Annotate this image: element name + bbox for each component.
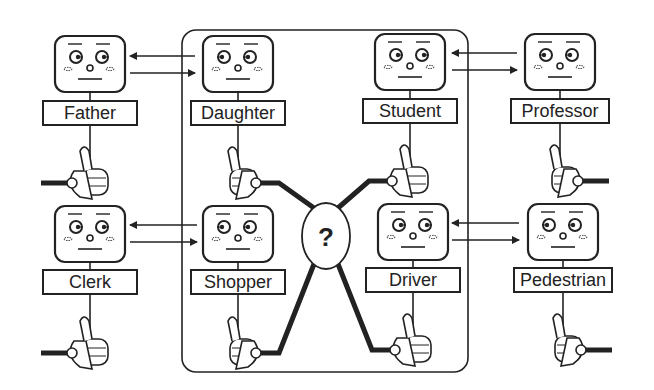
thumbs-up-hand-icon — [390, 314, 431, 366]
robot-face-icon — [55, 36, 125, 92]
role-label: Shopper — [191, 270, 285, 294]
thumbs-up-hand-icon — [228, 147, 261, 199]
thumbs-up-hand-icon — [228, 317, 261, 369]
connection-cable — [338, 181, 387, 208]
message-arrows-student-professor — [452, 53, 517, 70]
role-label-text: Daughter — [201, 103, 275, 123]
role-label: Daughter — [191, 101, 285, 125]
thumbs-up-hand-icon — [550, 145, 583, 197]
role-label: Pedestrian — [514, 268, 612, 292]
role-label: Clerk — [43, 270, 137, 294]
role-label-text: Clerk — [69, 272, 112, 292]
agent-shopper[interactable]: Shopper — [191, 206, 285, 369]
message-arrows-clerk-shopper — [130, 225, 197, 242]
robot-face-icon — [528, 204, 598, 260]
agent-professor[interactable]: Professor — [511, 34, 609, 197]
role-label-text: Professor — [521, 101, 598, 121]
role-label: Professor — [511, 99, 609, 123]
agent-daughter[interactable]: Daughter — [191, 36, 285, 199]
question-mark-icon: ? — [318, 222, 334, 252]
thumbs-up-hand-icon — [387, 145, 428, 197]
role-label-text: Shopper — [204, 272, 272, 292]
message-arrows-driver-pedestrian — [452, 223, 519, 240]
agent-student[interactable]: Student — [363, 34, 457, 197]
robot-face-icon — [203, 36, 273, 92]
agent-pedestrian[interactable]: Pedestrian — [514, 204, 612, 366]
robot-face-icon — [378, 204, 448, 260]
agent-father[interactable]: Father — [43, 36, 137, 199]
role-label: Student — [363, 99, 457, 123]
message-arrows-father-daughter — [130, 56, 195, 73]
role-label: Driver — [366, 268, 460, 292]
agent-driver[interactable]: Driver — [366, 204, 460, 366]
thumbs-up-hand-icon — [67, 317, 108, 369]
role-label-text: Pedestrian — [520, 270, 606, 290]
connection-cable — [261, 183, 314, 208]
robot-face-icon — [203, 206, 273, 262]
role-label: Father — [43, 101, 137, 125]
role-label-text: Student — [379, 101, 441, 121]
robot-face-icon — [525, 34, 595, 90]
robot-face-icon — [55, 206, 125, 262]
thumbs-up-hand-icon — [553, 314, 586, 366]
robot-face-icon — [375, 34, 445, 90]
question-hub: ? — [302, 203, 350, 269]
role-network-diagram: FatherDaughterStudentProfessorClerkShopp… — [0, 0, 654, 390]
role-label-text: Driver — [389, 270, 437, 290]
role-label-text: Father — [64, 103, 116, 123]
thumbs-up-hand-icon — [67, 147, 108, 199]
agent-clerk[interactable]: Clerk — [43, 206, 137, 369]
